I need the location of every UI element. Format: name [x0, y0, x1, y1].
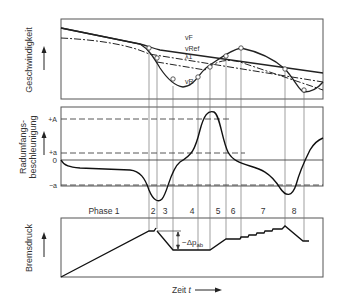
plus-a-label: +a: [49, 149, 57, 156]
vRef-label: vRef: [185, 45, 199, 52]
up-arrow-icon: [42, 232, 47, 239]
up-arrow-icon: [42, 131, 47, 138]
time-axis-label: Zeit t: [172, 285, 192, 295]
speed-markers: [147, 46, 306, 92]
lambda1-label: λ1: [185, 53, 193, 60]
svg-text:Phase 1: Phase 1: [88, 206, 119, 216]
right-arrow-icon: [215, 288, 222, 293]
svg-text:7: 7: [261, 206, 266, 216]
minus-a-label: −a: [49, 182, 57, 189]
vR-label: vR: [185, 78, 194, 85]
delta-p-annotation: [157, 231, 181, 249]
acceleration-axis-label-1: Radumfangs-: [18, 120, 28, 174]
vF-label: vF: [185, 34, 193, 41]
wheel-acceleration-curve: [61, 112, 323, 201]
svg-text:8: 8: [292, 206, 297, 216]
plus-A-label: +A: [48, 116, 57, 123]
svg-text:2: 2: [151, 206, 156, 216]
brake-pressure-curve: [61, 226, 309, 277]
zero-label: 0: [53, 156, 58, 165]
speed-axis-label: Geschwindigkeit: [24, 27, 34, 93]
svg-text:4: 4: [190, 206, 195, 216]
svg-text:6: 6: [231, 206, 236, 216]
abs-control-diagram: vF vRef λ1 vR Geschwindigkeit Radumfangs…: [0, 0, 337, 306]
svg-text:3: 3: [163, 206, 168, 216]
delta-p-label: −Δpab: [182, 238, 204, 248]
acceleration-axis-label-2: beschleunigung: [28, 115, 38, 178]
svg-text:5: 5: [216, 206, 221, 216]
phase-labels: Phase 1 2 3 4 5 6 7 8: [88, 206, 296, 216]
up-arrow-icon: [42, 46, 47, 53]
pressure-axis-label: Bremsdruck: [24, 223, 34, 272]
